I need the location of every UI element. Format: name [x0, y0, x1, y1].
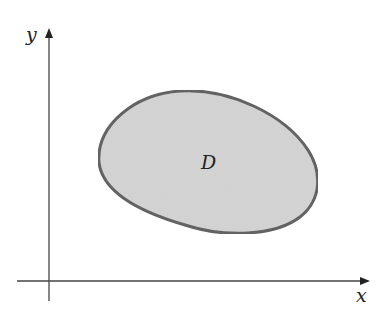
diagram-svg — [0, 0, 385, 319]
region-label: D — [201, 153, 216, 172]
diagram-canvas: y x D — [0, 0, 385, 319]
x-axis-label: x — [356, 286, 367, 305]
y-axis-arrow-icon — [45, 28, 53, 38]
y-axis-label: y — [26, 25, 37, 44]
